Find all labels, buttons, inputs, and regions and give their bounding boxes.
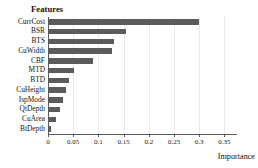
bar	[48, 29, 126, 35]
bar-row: CuHeight	[48, 85, 237, 95]
y-axis-tick-label: BSR	[31, 26, 45, 36]
bar-row: BtDepth	[48, 124, 237, 134]
x-axis-tick-label: 0.25	[168, 138, 180, 146]
chart-title: Features	[31, 4, 63, 14]
x-axis-tick	[149, 134, 150, 137]
bar-row: BTD	[48, 76, 237, 86]
x-axis-tick	[124, 134, 125, 137]
bar	[48, 126, 51, 132]
bar	[48, 48, 112, 54]
bar	[48, 97, 63, 103]
bar-row: CuArea	[48, 115, 237, 125]
x-axis-tick	[199, 134, 200, 137]
y-axis-tick-label: BtDepth	[20, 124, 45, 134]
x-axis-tick	[73, 134, 74, 137]
bar-row: CuWidth	[48, 46, 237, 56]
x-axis-tick-label: 0.2	[144, 138, 153, 146]
bar-row: QtDepth	[48, 105, 237, 115]
bar-row: IspMode	[48, 95, 237, 105]
y-axis-tick-label: BTS	[31, 36, 45, 46]
y-axis-tick-label: IspMode	[19, 95, 45, 105]
y-axis-tick-label: CBF	[31, 56, 45, 66]
plot-area: CurrCostBSRBTSCuWidthCBFMTDBTDCuHeightIs…	[48, 17, 237, 134]
y-axis-tick-label: CuHeight	[16, 85, 45, 95]
x-axis-tick	[224, 134, 225, 137]
bar-row: MTD	[48, 66, 237, 76]
bar	[48, 58, 93, 64]
bar	[48, 117, 56, 123]
x-axis-tick-label: 0.15	[117, 138, 129, 146]
x-axis-tick-label: 0.3	[195, 138, 204, 146]
bar-row: CBF	[48, 56, 237, 66]
x-axis-tick	[98, 134, 99, 137]
x-axis-tick-label: 0.05	[67, 138, 79, 146]
bar-row: BTS	[48, 37, 237, 47]
x-axis-tick-label: 0	[46, 138, 50, 146]
y-axis-tick-label: CuArea	[22, 114, 45, 124]
y-axis-tick-label: QtDepth	[20, 104, 45, 114]
bar	[48, 78, 69, 84]
x-axis-tick	[174, 134, 175, 137]
x-axis-tick-label: 0.1	[94, 138, 103, 146]
y-axis-tick-label: BTD	[30, 75, 45, 85]
y-axis-tick-label: CurrCost	[18, 17, 45, 27]
bar	[48, 87, 66, 93]
x-axis-tick	[48, 134, 49, 137]
bar-row: BSR	[48, 27, 237, 37]
y-axis-tick-label: CuWidth	[18, 46, 45, 56]
bar	[48, 39, 114, 45]
x-axis-line	[48, 134, 237, 135]
y-axis-tick-label: MTD	[29, 65, 45, 75]
x-axis-tick-label: 0.35	[218, 138, 230, 146]
feature-importance-chart: Features CurrCostBSRBTSCuWidthCBFMTDBTDC…	[0, 0, 258, 168]
x-axis-title: Importance	[218, 152, 255, 161]
bar-row: CurrCost	[48, 17, 237, 27]
bar	[48, 68, 74, 74]
bar	[48, 107, 60, 113]
bar	[48, 19, 199, 25]
